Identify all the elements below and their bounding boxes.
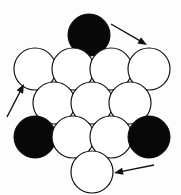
filled-circle[interactable] bbox=[14, 116, 56, 158]
empty-circle[interactable] bbox=[71, 151, 113, 193]
figure-canvas bbox=[0, 0, 181, 195]
circle-packing-figure bbox=[0, 0, 181, 195]
circle-row bbox=[33, 82, 151, 124]
circle-row bbox=[71, 151, 113, 193]
filled-circle[interactable] bbox=[128, 116, 170, 158]
